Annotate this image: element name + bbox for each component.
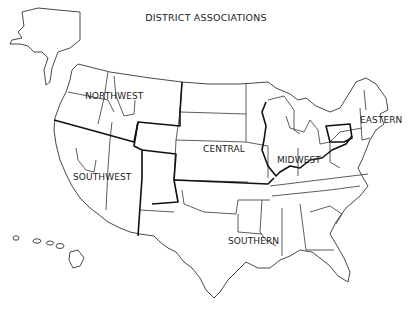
region-label-southwest: SOUTHWEST <box>73 172 131 182</box>
region-label-southern: SOUTHERN <box>228 236 279 246</box>
region-label-midwest: MIDWEST <box>277 155 321 165</box>
region-label-northwest: NORTHWEST <box>85 91 143 101</box>
region-label-central: CENTRAL <box>203 144 245 154</box>
us-map <box>0 0 412 315</box>
region-label-eastern: EASTERN <box>360 115 402 125</box>
hawaii-shape <box>13 236 84 268</box>
alaska-shape <box>10 8 80 85</box>
